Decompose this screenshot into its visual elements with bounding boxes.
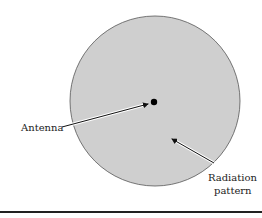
antenna-dot	[151, 99, 157, 105]
radiation-label-line1: Radiation	[208, 172, 257, 184]
radiation-label-line2: pattern	[214, 185, 252, 197]
antenna-label: Antenna	[21, 122, 63, 134]
